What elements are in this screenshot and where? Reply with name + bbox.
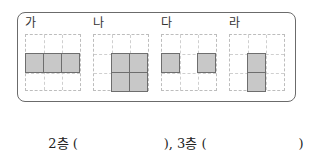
figure-label: 라 <box>229 16 240 30</box>
figure-label: 가 <box>25 16 36 30</box>
shaded-cell <box>129 72 148 92</box>
close-paren-2: ) <box>299 136 304 151</box>
grid-line <box>266 35 267 90</box>
shaded-cell <box>129 53 148 73</box>
grid <box>161 34 217 91</box>
shaded-cell <box>111 72 130 92</box>
shaded-cell <box>111 53 130 73</box>
grid <box>229 34 285 91</box>
shaded-cell <box>43 53 62 73</box>
shaded-cell <box>247 72 266 92</box>
grid-line <box>162 73 216 74</box>
shaded-cell <box>61 53 80 73</box>
shaded-cell <box>25 53 44 73</box>
floor2-label: 2층 ( <box>48 136 77 151</box>
shaded-cell <box>197 53 216 73</box>
figure-label: 다 <box>161 16 172 30</box>
grid <box>93 34 149 91</box>
shaded-cell <box>161 53 180 73</box>
grid-line <box>180 35 181 90</box>
floor3-label: 3층 ( <box>177 136 206 151</box>
grid <box>25 34 81 91</box>
shaded-cell <box>247 53 266 73</box>
grid-line <box>26 73 80 74</box>
figure-label: 나 <box>93 16 104 30</box>
close-paren-1: ), <box>164 136 173 151</box>
answer-line: 2층 (), 3층 () <box>40 118 304 151</box>
